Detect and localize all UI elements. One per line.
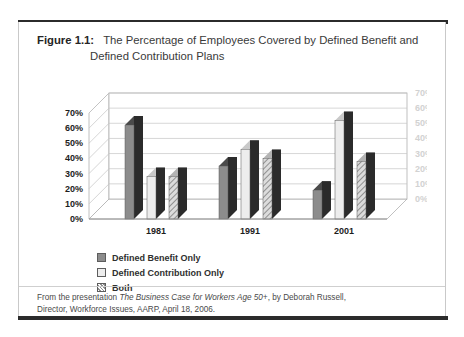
figure-container: Figure 1.1:The Percentage of Employees C… bbox=[0, 0, 464, 337]
source-note: From the presentation The Business Case … bbox=[37, 292, 437, 315]
bar-1991-both bbox=[263, 149, 281, 219]
svg-text:50%: 50% bbox=[415, 118, 427, 128]
bar-1981-defined-contribution-only bbox=[147, 168, 165, 219]
svg-text:50%: 50% bbox=[65, 138, 83, 148]
legend-label-both: Both bbox=[112, 283, 133, 293]
svg-text:0%: 0% bbox=[70, 214, 83, 224]
svg-text:60%: 60% bbox=[415, 103, 427, 113]
x-axis-labels: 1981 1991 2001 bbox=[146, 226, 354, 236]
svg-text:1991: 1991 bbox=[240, 226, 260, 236]
svg-text:2001: 2001 bbox=[334, 226, 354, 236]
svg-text:20%: 20% bbox=[415, 164, 427, 174]
source-line-1: From the presentation The Business Case … bbox=[37, 292, 437, 304]
legend-label-contribution: Defined Contribution Only bbox=[112, 268, 224, 278]
legend-swatch-icon-benefit bbox=[97, 253, 106, 262]
source-pre: From the presentation bbox=[37, 293, 119, 302]
chart-svg: 70% 60% 50% 40% 30% 20% 10% 0% 70% 60% 5… bbox=[37, 78, 427, 246]
legend-swatch-icon-both bbox=[97, 283, 106, 292]
svg-text:30%: 30% bbox=[415, 149, 427, 159]
bottom-rule bbox=[18, 316, 448, 320]
bar-2001-defined-contribution-only bbox=[335, 112, 353, 219]
svg-text:0%: 0% bbox=[415, 194, 427, 204]
title-line-1: Figure 1.1:The Percentage of Employees C… bbox=[37, 33, 427, 49]
source-divider bbox=[19, 286, 445, 287]
svg-text:40%: 40% bbox=[65, 153, 83, 163]
y-axis-right-labels: 70% 60% 50% 40% 30% 20% 10% 0% bbox=[415, 88, 427, 204]
source-line-2: Director, Workforce Issues, AARP, April … bbox=[37, 304, 437, 316]
figure-title: Figure 1.1:The Percentage of Employees C… bbox=[37, 33, 427, 64]
bar-1981-both bbox=[169, 168, 187, 219]
svg-text:30%: 30% bbox=[65, 169, 83, 179]
svg-text:40%: 40% bbox=[415, 133, 427, 143]
legend-label-benefit: Defined Benefit Only bbox=[112, 253, 201, 263]
source-publication-title: The Business Case for Workers Age 50+ bbox=[119, 293, 267, 302]
svg-text:70%: 70% bbox=[415, 88, 427, 98]
svg-text:60%: 60% bbox=[65, 123, 83, 133]
bar-1991-defined-benefit-only bbox=[219, 157, 237, 219]
bar-1981-defined-benefit-only bbox=[125, 116, 143, 219]
bar-2001-both bbox=[357, 152, 375, 219]
bar-1991-defined-contribution-only bbox=[241, 140, 259, 219]
legend-item-defined-benefit-only: Defined Benefit Only bbox=[97, 251, 347, 264]
y-axis-left-labels: 70% 60% 50% 40% 30% 20% 10% 0% bbox=[65, 108, 83, 224]
legend-item-defined-contribution-only: Defined Contribution Only bbox=[97, 266, 347, 279]
title-text-1: The Percentage of Employees Covered by D… bbox=[103, 34, 418, 46]
title-line-2: Defined Contribution Plans bbox=[37, 49, 427, 65]
svg-text:20%: 20% bbox=[65, 184, 83, 194]
figure-label: Figure 1.1: bbox=[37, 34, 94, 46]
bar-chart: 70% 60% 50% 40% 30% 20% 10% 0% 70% 60% 5… bbox=[37, 78, 427, 246]
svg-text:70%: 70% bbox=[65, 108, 83, 118]
legend-swatch-icon-contribution bbox=[97, 268, 106, 277]
svg-text:1981: 1981 bbox=[146, 226, 166, 236]
source-post: , by Deborah Russell, bbox=[268, 293, 346, 302]
svg-text:10%: 10% bbox=[415, 179, 427, 189]
svg-text:10%: 10% bbox=[65, 199, 83, 209]
chart-legend: Defined Benefit Only Defined Contributio… bbox=[97, 251, 347, 296]
